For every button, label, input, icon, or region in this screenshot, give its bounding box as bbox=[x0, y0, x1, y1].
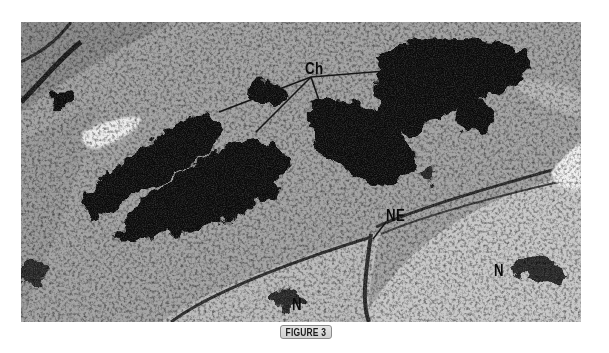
figure-caption-badge: FIGURE 3 bbox=[280, 325, 332, 339]
label-nucleus-bottom: N bbox=[292, 296, 302, 313]
label-chromatin: Ch bbox=[305, 60, 323, 77]
label-nuclear-envelope: NE bbox=[386, 207, 405, 224]
label-nucleus-right: N bbox=[494, 262, 504, 279]
figure-caption: FIGURE 3 bbox=[286, 327, 327, 338]
micrograph-figure: Ch NE N N FIGURE 3 bbox=[0, 0, 609, 353]
